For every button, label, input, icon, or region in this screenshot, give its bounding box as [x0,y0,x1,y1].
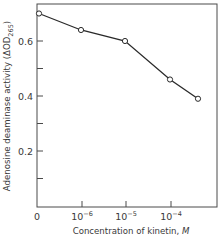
x-tick-label: 10−4 [160,210,182,222]
plot-frame [37,4,217,207]
x-tick-label: 10−5 [115,210,137,222]
data-point-marker [122,38,127,43]
chart: 0.20.40.6 010−610−510−4 Concentration of… [0,0,219,241]
y-axis-label: Adenosine deaminase activity (ΔOD265) [2,21,15,191]
y-tick-label: 0.6 [18,36,33,47]
x-axis-ticks [82,201,171,207]
y-tick-label: 0.4 [18,91,33,102]
x-tick-label: 0 [34,211,40,222]
data-point-marker [195,96,200,101]
y-axis-ticks [37,41,43,179]
y-axis-tick-labels: 0.20.40.6 [18,36,33,157]
y-tick-label: 0.2 [18,146,33,157]
data-markers [36,11,200,101]
x-tick-label: 10−6 [71,210,93,222]
x-axis-label: Concentration of kinetin, M [73,226,190,236]
data-point-marker [78,27,83,32]
data-point-marker [36,11,41,16]
data-line [39,14,198,99]
data-point-marker [167,77,172,82]
x-axis-tick-labels: 010−610−510−4 [34,210,182,222]
